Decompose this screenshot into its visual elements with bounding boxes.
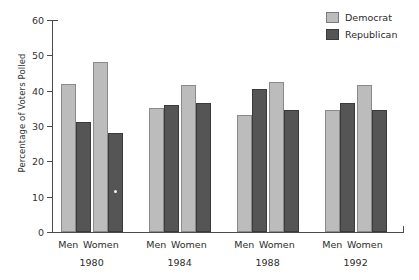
- y-tick-mark: [47, 91, 53, 92]
- x-label-men-1984: Men: [146, 239, 166, 250]
- y-axis-title: Percentage of Voters Polled: [17, 33, 27, 193]
- bar-democrat-women-1984: [181, 85, 196, 232]
- bar-republican-women-1992: [372, 110, 387, 232]
- x-axis-line: [52, 232, 404, 233]
- x-axis-end-cap: [403, 226, 404, 233]
- x-group-label-1980: 1980: [80, 257, 104, 268]
- x-label-women-1988: Women: [259, 239, 295, 250]
- y-tick-label: 0: [38, 227, 44, 238]
- bar-republican-men-1980: [76, 122, 91, 232]
- y-tick-mark: [47, 161, 53, 162]
- bar-republican-men-1984: [164, 105, 179, 232]
- legend-label-democrat: Democrat: [345, 12, 392, 23]
- legend-item-republican: Republican: [326, 29, 397, 40]
- y-tick-mark: [47, 55, 53, 56]
- y-tick-label: 30: [32, 121, 44, 132]
- x-group-label-1988: 1988: [256, 257, 280, 268]
- bar-republican-women-1980: [108, 133, 123, 232]
- y-tick-label: 50: [32, 50, 44, 61]
- x-group-label-1984: 1984: [168, 257, 192, 268]
- plot-area: 0102030405060: [52, 20, 404, 232]
- y-tick-mark: [47, 232, 53, 233]
- x-label-women-1980: Women: [83, 239, 119, 250]
- x-label-men-1992: Men: [322, 239, 342, 250]
- x-label-men-1988: Men: [234, 239, 254, 250]
- y-tick-mark: [47, 197, 53, 198]
- bar-democrat-men-1988: [237, 115, 252, 232]
- y-tick-label: 40: [32, 85, 44, 96]
- bar-chart: Percentage of Voters Polled 010203040506…: [0, 0, 419, 280]
- bar-republican-women-1988: [284, 110, 299, 232]
- legend-label-republican: Republican: [345, 29, 397, 40]
- bar-republican-men-1992: [340, 103, 355, 232]
- legend-swatch-republican: [326, 29, 339, 40]
- x-label-women-1992: Women: [347, 239, 383, 250]
- y-tick-mark: [47, 126, 53, 127]
- bar-republican-women-1984: [196, 103, 211, 232]
- bar-republican-men-1988: [252, 89, 267, 232]
- legend-item-democrat: Democrat: [326, 12, 397, 23]
- y-tick-label: 60: [32, 15, 44, 26]
- legend-swatch-democrat: [326, 12, 339, 23]
- x-group-label-1992: 1992: [344, 257, 368, 268]
- bar-democrat-men-1980: [61, 84, 76, 232]
- bar-democrat-women-1992: [357, 85, 372, 232]
- bar-democrat-women-1988: [269, 82, 284, 232]
- bar-democrat-men-1992: [325, 110, 340, 232]
- y-tick-mark: [47, 20, 53, 21]
- x-label-men-1980: Men: [58, 239, 78, 250]
- bar-democrat-men-1984: [149, 108, 164, 232]
- legend: Democrat Republican: [326, 12, 397, 46]
- bar-democrat-women-1980: [93, 62, 108, 232]
- y-tick-label: 10: [32, 191, 44, 202]
- y-tick-label: 20: [32, 156, 44, 167]
- x-label-women-1984: Women: [171, 239, 207, 250]
